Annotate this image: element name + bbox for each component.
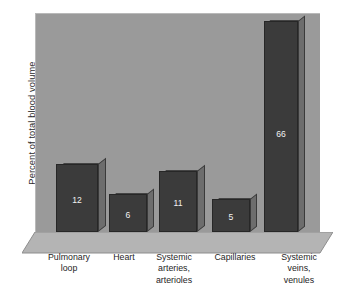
bar-front-face: 6 <box>109 194 147 232</box>
bar-value-label: 6 <box>110 210 146 220</box>
bar-value-label: 5 <box>213 212 249 222</box>
bar-heart: 6 <box>109 194 147 232</box>
bar-value-label: 12 <box>57 195 97 205</box>
chart-floor <box>22 232 333 254</box>
bar-systemic-veins: 66 <box>264 21 298 232</box>
bar-side-face <box>298 16 305 232</box>
x-label-systemic-veins: Systemic veins, venules <box>267 252 331 286</box>
x-label-pulmonary-loop: Pulmonary loop <box>35 252 103 275</box>
bar-side-face <box>98 158 106 232</box>
bar-side-face <box>197 165 205 232</box>
bar-front-face: 66 <box>264 21 298 232</box>
bar-value-label: 66 <box>265 129 297 139</box>
bar-chart: Percent of total blood volume 12 6 <box>0 0 343 294</box>
bar-front-face: 5 <box>212 199 250 232</box>
bar-front-face: 11 <box>159 171 197 232</box>
bar-front-face: 12 <box>56 164 98 232</box>
x-label-systemic-arteries: Systemic arteries, arterioles <box>142 252 206 286</box>
bar-pulmonary-loop: 12 <box>56 164 98 232</box>
bar-value-label: 11 <box>160 198 196 208</box>
x-label-capillaries: Capillaries <box>202 252 268 263</box>
x-axis-labels: Pulmonary loop Heart Systemic arteries, … <box>35 252 335 294</box>
bar-side-face <box>147 189 154 232</box>
x-label-heart: Heart <box>101 252 147 263</box>
bar-side-face <box>250 194 257 232</box>
bar-systemic-arteries: 11 <box>159 171 197 232</box>
bar-capillaries: 5 <box>212 199 250 232</box>
plot-area: 12 6 11 5 <box>35 13 320 232</box>
